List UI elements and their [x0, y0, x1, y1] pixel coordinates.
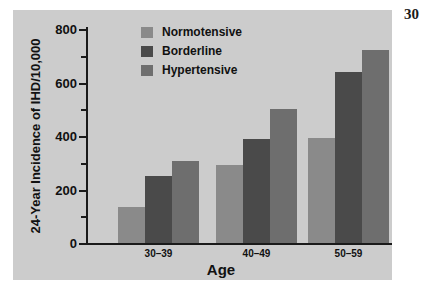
y-tick-minor [81, 163, 86, 165]
legend-item: Hypertensive [141, 62, 242, 78]
y-tick-minor [81, 56, 86, 58]
y-tick-major [79, 29, 86, 31]
y-tick-label: 600 [55, 75, 77, 90]
legend-swatch-icon [141, 27, 153, 38]
y-tick-major [79, 190, 86, 192]
x-tick-label: 40–49 [243, 248, 271, 259]
x-tick-label: 50–59 [335, 248, 363, 259]
bar [118, 207, 145, 243]
bar [270, 109, 297, 243]
bar [308, 138, 335, 243]
page-number: 30 [404, 6, 419, 23]
y-tick-minor [81, 109, 86, 111]
y-tick-minor [81, 216, 86, 218]
y-tick-major [79, 83, 86, 85]
legend-swatch-icon [141, 65, 153, 76]
bar [243, 139, 270, 243]
legend-item: Normotensive [141, 24, 242, 40]
legend-label: Hypertensive [162, 63, 237, 77]
chart-legend: NormotensiveBorderlineHypertensive [141, 24, 242, 81]
legend-item: Borderline [141, 43, 242, 59]
x-axis-title: Age [207, 261, 235, 278]
bar [335, 72, 362, 243]
y-tick-major [79, 136, 86, 138]
bar [216, 165, 243, 243]
y-tick-label: 0 [70, 236, 77, 251]
bar [172, 161, 199, 243]
x-tick-label: 30–39 [145, 248, 173, 259]
y-tick-label: 800 [55, 22, 77, 37]
legend-label: Normotensive [162, 25, 242, 39]
bar [145, 176, 172, 243]
y-axis-line [86, 27, 88, 245]
y-tick-label: 400 [55, 129, 77, 144]
legend-label: Borderline [162, 44, 222, 58]
y-tick-label: 200 [55, 182, 77, 197]
figure-panel: 0200400600800 30–3940–4950–59 Age 24-Yea… [13, 10, 392, 280]
bar [362, 50, 389, 243]
x-axis-line [86, 243, 392, 245]
legend-swatch-icon [141, 46, 153, 57]
y-axis-title: 24-Year Incidence of IHD/10,000 [27, 29, 45, 243]
y-tick-major [79, 243, 86, 245]
